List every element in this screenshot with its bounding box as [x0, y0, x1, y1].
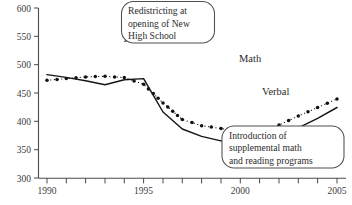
verbal-point-1993-5: [113, 75, 117, 79]
x-tick-label-2000: 2000: [231, 186, 250, 196]
y-tick-label-350: 350: [17, 145, 32, 155]
y-tick-label-450: 450: [17, 89, 32, 99]
redistricting-callout-line3: High School: [128, 30, 177, 41]
y-tick-label-550: 550: [17, 32, 32, 42]
verbal-point-1992: [84, 75, 88, 79]
verbal-point-2004: [316, 106, 320, 110]
figure-container: 600 550 500 450 400 350 300: [0, 0, 352, 205]
verbal-point-1997-5: [190, 121, 194, 125]
verbal-point-1994: [123, 76, 127, 80]
x-axis: 1990 1995 2000 2005: [38, 178, 347, 196]
y-tick-label-400: 400: [17, 117, 32, 127]
supplemental-callout-line3: and reading programs: [229, 155, 313, 166]
verbal-point-2003-5: [306, 110, 310, 114]
redistricting-callout-line2: opening of New: [128, 18, 190, 29]
verbal-point-1990-5: [55, 78, 59, 82]
verbal-point-1996-25: [166, 105, 170, 109]
verbal-point-1996-5: [171, 109, 175, 113]
verbal-point-2005: [335, 97, 339, 101]
y-tick-label-300: 300: [17, 174, 32, 184]
verbal-point-1999: [219, 127, 223, 131]
supplemental-callout-line1: Introduction of: [229, 130, 288, 141]
verbal-point-1996-75: [176, 114, 180, 118]
x-tick-label-1990: 1990: [38, 186, 57, 196]
verbal-point-1997: [181, 118, 185, 122]
verbal-point-1990: [45, 79, 49, 83]
verbal-point-1995-75: [156, 97, 160, 101]
series-verbal: [45, 75, 339, 134]
annotation-redistricting[interactable]: Redistricting at opening of New High Sch…: [122, 2, 215, 44]
verbal-point-1998-5: [210, 125, 214, 129]
annotation-supplemental[interactable]: Introduction of supplemental math and re…: [222, 126, 344, 168]
verbal-point-2002-5: [287, 119, 291, 123]
verbal-point-1995: [142, 83, 146, 87]
verbal-point-2003: [297, 114, 301, 118]
sat-scores-line-chart: 600 550 500 450 400 350 300: [0, 0, 352, 205]
verbal-point-2004-5: [326, 102, 330, 106]
x-tick-label-1995: 1995: [134, 186, 153, 196]
verbal-point-1996: [161, 101, 165, 105]
y-tick-label-600: 600: [17, 4, 32, 14]
verbal-point-1993: [103, 75, 107, 79]
series-label-verbal: Verbal: [262, 86, 289, 97]
verbal-point-1998: [200, 124, 204, 128]
verbal-point-1992-5: [94, 75, 98, 79]
redistricting-callout-line1: Redistricting at: [128, 5, 187, 16]
supplemental-callout-line2: supplemental math: [229, 142, 302, 153]
x-tick-label-2005: 2005: [328, 186, 347, 196]
y-axis: 600 550 500 450 400 350 300: [17, 4, 39, 184]
series-label-math: Math: [239, 53, 262, 64]
y-tick-label-500: 500: [17, 60, 32, 70]
